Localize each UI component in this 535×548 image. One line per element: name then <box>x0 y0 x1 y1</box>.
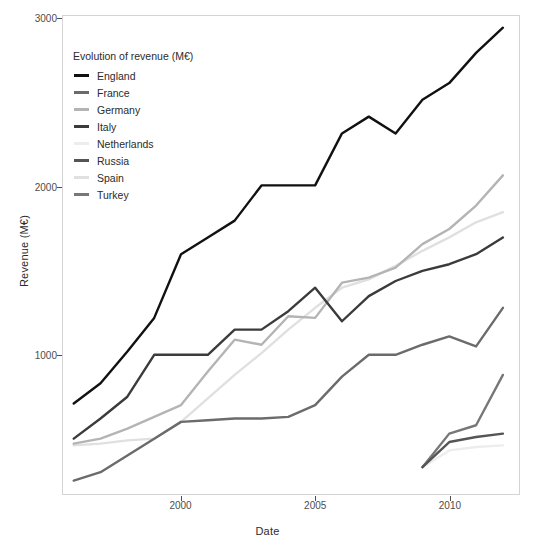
y-axis-title: Revenue (M€) <box>18 181 30 321</box>
legend-item-label: Netherlands <box>97 138 154 150</box>
y-tick-label: 3000 <box>35 13 57 24</box>
legend-item-italy[interactable]: Italy <box>72 118 193 135</box>
legend-item-label: Turkey <box>97 189 129 201</box>
x-tick-label: 2010 <box>439 500 461 511</box>
legend-title: Evolution of revenue (M€) <box>73 50 193 62</box>
legend-item-label: Russia <box>97 155 129 167</box>
legend-key-icon <box>72 187 91 202</box>
legend-key-icon <box>72 85 91 100</box>
legend-items: EnglandFranceGermanyItalyNetherlandsRuss… <box>72 67 193 203</box>
y-tick-label: 1000 <box>35 350 57 361</box>
legend-key-icon <box>72 153 91 168</box>
legend-item-label: Italy <box>97 121 116 133</box>
legend-item-france[interactable]: France <box>72 84 193 101</box>
x-tick-mark <box>450 496 451 501</box>
legend-item-label: England <box>97 70 136 82</box>
legend-item-label: Spain <box>97 172 124 184</box>
legend-key-icon <box>72 119 91 134</box>
legend-item-spain[interactable]: Spain <box>72 169 193 186</box>
legend-item-label: France <box>97 87 130 99</box>
line-series-turkey <box>422 375 502 467</box>
y-tick-label: 2000 <box>35 181 57 192</box>
legend-key-icon <box>72 102 91 117</box>
legend-item-england[interactable]: England <box>72 67 193 84</box>
revenue-line-chart: 100020003000 Revenue (M€) Evolution of r… <box>0 0 535 548</box>
legend-item-turkey[interactable]: Turkey <box>72 186 193 203</box>
x-tick-mark <box>315 496 316 501</box>
legend-item-label: Germany <box>97 104 140 116</box>
legend-key-icon <box>72 68 91 83</box>
legend-item-germany[interactable]: Germany <box>72 101 193 118</box>
legend: Evolution of revenue (M€) EnglandFranceG… <box>68 48 197 205</box>
x-axis-title: Date <box>0 525 535 537</box>
line-series-germany <box>74 175 503 443</box>
x-tick-mark <box>181 496 182 501</box>
legend-key-icon <box>72 136 91 151</box>
legend-key-icon <box>72 170 91 185</box>
legend-item-netherlands[interactable]: Netherlands <box>72 135 193 152</box>
line-series-france <box>74 308 503 481</box>
x-tick-label: 2005 <box>304 500 326 511</box>
line-series-spain <box>74 212 503 445</box>
x-tick-label: 2000 <box>169 500 191 511</box>
legend-item-russia[interactable]: Russia <box>72 152 193 169</box>
